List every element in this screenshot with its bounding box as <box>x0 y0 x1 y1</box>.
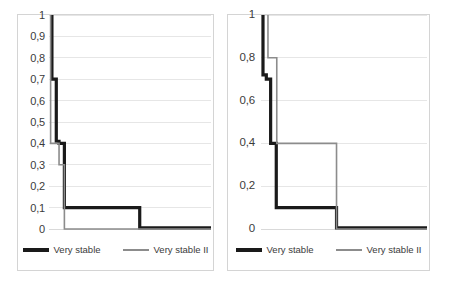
y-axis-tick-label: 0,7 <box>30 74 45 85</box>
series-canvas-right <box>261 15 427 229</box>
plot-area-left <box>49 15 211 229</box>
y-axis-tick-label: 0,5 <box>30 117 45 128</box>
y-axis-tick-label: 1 <box>39 10 45 21</box>
series-line-very-stable <box>263 15 427 228</box>
series-line-very-stable <box>52 15 211 228</box>
y-axis-labels-left: 10,90,80,70,60,50,40,30,20,10 <box>18 15 48 229</box>
two-panel-survival-figure: 10,90,80,70,60,50,40,30,20,10 Very stabl… <box>0 0 449 297</box>
legend-item-very-stable[interactable]: Very stable <box>236 245 314 255</box>
legend-right: Very stable Very stable II <box>228 236 429 264</box>
legend-label-very-stable: Very stable <box>267 245 314 255</box>
y-axis-tick-label: 0,1 <box>30 202 45 213</box>
legend-item-very-stable[interactable]: Very stable <box>23 245 101 255</box>
legend-item-very-stable-ii[interactable]: Very stable II <box>123 245 209 255</box>
y-axis-tick-label: 0,9 <box>30 31 45 42</box>
y-axis-tick-label: 0,8 <box>30 52 45 63</box>
legend-line-icon-black <box>236 248 262 252</box>
legend-left: Very stable Very stable II <box>18 236 213 264</box>
chart-panel-left: 10,90,80,70,60,50,40,30,20,10 Very stabl… <box>17 14 214 271</box>
y-axis-tick-label: 0,6 <box>30 95 45 106</box>
series-line-very-stable-ii <box>51 15 211 229</box>
y-axis-labels-right: 10,80,60,40,20 <box>228 15 258 229</box>
legend-label-very-stable-ii: Very stable II <box>154 245 209 255</box>
y-axis-tick-label: 0 <box>249 223 255 235</box>
chart-panel-right: 10,80,60,40,20 Very stable Very stable I… <box>227 14 430 271</box>
y-axis-tick-label: 0,4 <box>240 138 255 150</box>
y-axis-tick-label: 0,6 <box>240 95 255 107</box>
legend-label-very-stable-ii: Very stable II <box>367 245 422 255</box>
plot-wrap-right: 10,80,60,40,20 <box>228 15 429 229</box>
legend-item-very-stable-ii[interactable]: Very stable II <box>336 245 422 255</box>
legend-line-icon-gray <box>123 249 149 251</box>
series-canvas-left <box>49 15 211 229</box>
y-axis-tick-label: 1 <box>249 9 255 21</box>
legend-label-very-stable: Very stable <box>54 245 101 255</box>
y-axis-tick-label: 0 <box>39 224 45 235</box>
y-axis-tick-label: 0,2 <box>30 181 45 192</box>
legend-line-icon-black <box>23 248 49 252</box>
plot-wrap-left: 10,90,80,70,60,50,40,30,20,10 <box>18 15 213 229</box>
series-line-very-stable-ii <box>268 15 427 229</box>
y-axis-tick-label: 0,3 <box>30 159 45 170</box>
y-axis-tick-label: 0,2 <box>240 180 255 192</box>
y-axis-tick-label: 0,8 <box>240 52 255 64</box>
plot-area-right <box>261 15 427 229</box>
y-axis-tick-label: 0,4 <box>30 138 45 149</box>
legend-line-icon-gray <box>336 249 362 251</box>
